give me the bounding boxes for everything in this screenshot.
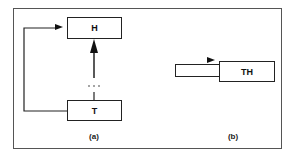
feedback-arrowhead-icon xyxy=(55,24,63,30)
ellipsis-dots xyxy=(88,85,100,87)
head-node-box: H xyxy=(67,17,122,39)
th-arrowhead-icon xyxy=(207,57,215,63)
feedback-loop-line xyxy=(24,28,67,111)
panel-b-caption: (b) xyxy=(228,132,238,141)
tail-node-label: T xyxy=(92,106,98,116)
th-node-label: TH xyxy=(241,67,253,77)
th-node-box: TH xyxy=(219,61,275,82)
tail-node-box: T xyxy=(67,100,122,121)
head-node-label: H xyxy=(91,23,98,33)
upward-arrowhead-icon xyxy=(90,39,98,53)
th-stub-rect xyxy=(175,64,221,77)
panel-a-caption: (a) xyxy=(89,132,99,141)
